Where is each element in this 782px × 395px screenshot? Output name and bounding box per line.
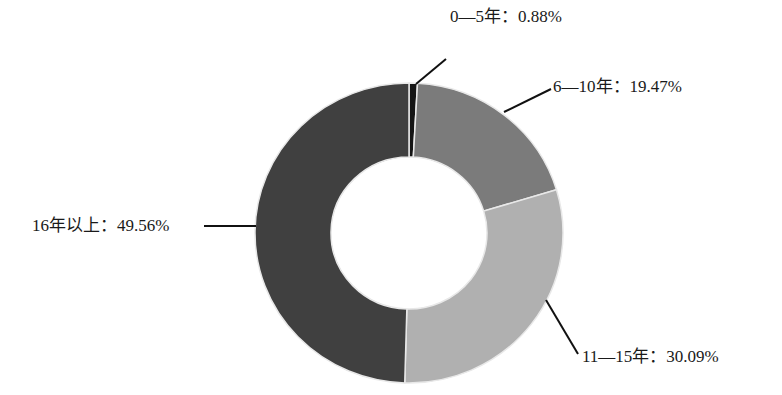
leader-line — [504, 89, 551, 112]
data-label-11-15-years: 11—15年：30.09% — [582, 347, 719, 367]
slice-16-plus-years — [255, 83, 409, 383]
data-label-6-10-years: 6—10年：19.47% — [553, 77, 682, 97]
slice-11-15-years — [405, 190, 563, 383]
donut-chart — [0, 0, 782, 395]
leader-line — [546, 300, 578, 354]
leader-line — [416, 59, 446, 84]
slice-6-10-years — [413, 83, 556, 211]
donut-slices — [255, 83, 563, 383]
data-label-0-5-years: 0—5年：0.88% — [450, 7, 562, 27]
data-label-16-plus-years: 16年以上：49.56% — [32, 216, 169, 236]
